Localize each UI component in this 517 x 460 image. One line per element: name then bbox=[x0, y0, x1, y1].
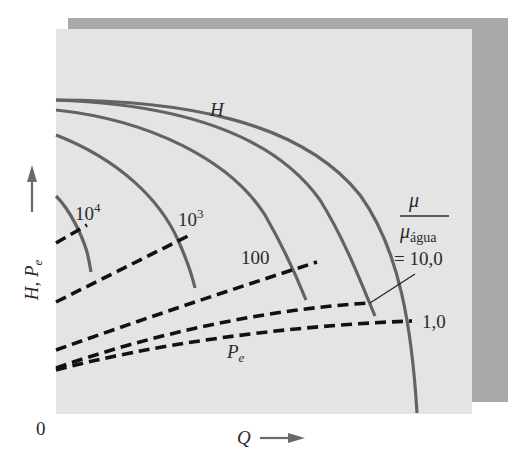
right-arrow-icon bbox=[288, 433, 305, 443]
ratio-numerator: μ bbox=[408, 189, 419, 212]
label-mu-1: 1,0 bbox=[422, 311, 446, 332]
viscosity-pump-curves-figure: H 104 103 100 μ μágua = 10,0 1,0 Pe H, P… bbox=[0, 0, 517, 460]
y-axis-label-group: H, Pe bbox=[21, 165, 45, 301]
ratio-value: = 10,0 bbox=[394, 248, 443, 269]
y-axis-label: H, Pe bbox=[21, 259, 45, 301]
head-curve-label: H bbox=[209, 99, 225, 120]
label-mu-100: 100 bbox=[241, 247, 270, 268]
x-axis-label: Q bbox=[237, 427, 251, 448]
origin-label: 0 bbox=[36, 418, 46, 439]
up-arrow-icon bbox=[27, 165, 37, 182]
x-axis-label-group: Q bbox=[237, 427, 305, 448]
